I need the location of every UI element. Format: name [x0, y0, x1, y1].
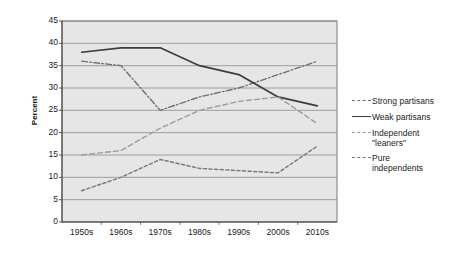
legend-label: Pure independents	[372, 153, 460, 173]
dash-dot-swatch	[352, 100, 371, 103]
legend-entry[interactable]: Pure independents	[352, 153, 460, 173]
legend-label: Weak partisans	[372, 112, 460, 122]
chart-figure: Percent 454035302520151050 1950s1960s197…	[0, 0, 461, 253]
dotted-swatch	[352, 157, 371, 160]
legend-label: Strong partisans	[372, 96, 460, 106]
plot-background	[62, 21, 337, 222]
legend-entry[interactable]: Independent "leaners"	[352, 128, 460, 148]
dashed-swatch	[352, 132, 371, 135]
legend-label: Independent "leaners"	[372, 128, 460, 148]
solid-swatch	[352, 116, 371, 119]
legend-entry[interactable]: Weak partisans	[352, 112, 460, 123]
legend-entry[interactable]: Strong partisans	[352, 96, 460, 107]
chart-legend: Strong partisansWeak partisansIndependen…	[352, 96, 460, 178]
